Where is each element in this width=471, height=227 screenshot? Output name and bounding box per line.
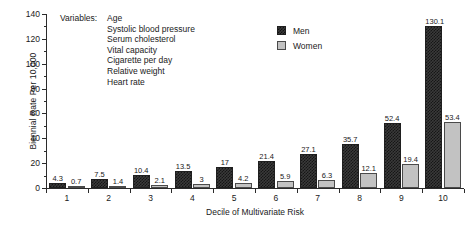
bar-value-label: 5.9 — [280, 173, 290, 181]
x-tick-label: 6 — [274, 193, 279, 203]
bar-chart-figure: Biennial Rate Per 10,000 020406080100120… — [0, 0, 471, 227]
bar-men: 21.4 — [258, 161, 275, 188]
bar-value-label: 4.2 — [238, 175, 248, 183]
bar-value-label: 27.1 — [301, 146, 316, 154]
bar-women: 4.2 — [235, 183, 252, 188]
variable-item: Cigarette per day — [107, 55, 195, 66]
bar-value-label: 12.1 — [361, 165, 376, 173]
legend-label: Women — [293, 41, 322, 51]
bar-men: 17 — [216, 167, 233, 188]
legend-label: Men — [293, 26, 310, 36]
x-tick — [171, 189, 172, 193]
chart-legend: MenWomen — [277, 23, 322, 53]
bar-value-label: 52.4 — [385, 115, 400, 123]
bar-women: 12.1 — [360, 173, 377, 188]
y-tick-label: 40 — [16, 133, 40, 143]
x-tick-label: 4 — [190, 193, 195, 203]
bar-women: 2.1 — [151, 185, 168, 188]
bar-women: 53.4 — [444, 122, 461, 188]
x-tick-label: 2 — [106, 193, 111, 203]
x-tick — [380, 189, 381, 193]
bar-group: 174.2 — [213, 14, 255, 188]
y-tick-label: 20 — [16, 158, 40, 168]
bar-men: 7.5 — [91, 179, 108, 188]
bar-value-label: 1.4 — [113, 178, 123, 186]
x-tick — [130, 189, 131, 193]
x-axis-title: Decile of Multivariate Risk — [46, 207, 464, 217]
y-tick-label: 0 — [16, 183, 40, 193]
bar-value-label: 2.1 — [155, 177, 165, 185]
y-tick-label: 80 — [16, 84, 40, 94]
bar-value-label: 21.4 — [259, 153, 274, 161]
bar-value-label: 0.7 — [71, 178, 81, 186]
variables-list: AgeSystolic blood pressureSerum choleste… — [107, 13, 195, 87]
bar-men: 52.4 — [384, 123, 401, 188]
variable-item: Relative weight — [107, 66, 195, 77]
bar-value-label: 130.1 — [425, 18, 442, 26]
x-tick — [464, 189, 465, 193]
x-tick — [297, 189, 298, 193]
x-tick-label: 5 — [232, 193, 237, 203]
legend-item-men: Men — [277, 23, 322, 38]
bar-group: 130.153.4 — [422, 14, 464, 188]
bar-value-label: 10.4 — [134, 167, 149, 175]
bar-value-label: 7.5 — [94, 171, 104, 179]
x-tick — [213, 189, 214, 193]
x-tick-label: 9 — [399, 193, 404, 203]
bar-men: 27.1 — [300, 154, 317, 188]
bar-value-label: 13.5 — [176, 163, 191, 171]
bar-men: 130.1 — [425, 26, 442, 188]
y-tick-label: 60 — [16, 108, 40, 118]
bar-women: 19.4 — [402, 164, 419, 188]
bar-group: 52.419.4 — [380, 14, 422, 188]
x-tick — [255, 189, 256, 193]
bar-value-label: 6.3 — [322, 172, 332, 180]
bar-value-label: 19.4 — [403, 156, 418, 164]
bar-men: 4.3 — [49, 183, 66, 188]
x-tick-label: 1 — [65, 193, 70, 203]
bar-value-label: 35.7 — [343, 136, 358, 144]
variable-item: Serum cholesterol — [107, 34, 195, 45]
variables-title: Variables: — [60, 13, 97, 24]
bar-men: 35.7 — [342, 144, 359, 188]
y-axis-tick-labels: 020406080100120140 — [16, 0, 40, 227]
variable-item: Age — [107, 13, 195, 24]
bar-women: 3 — [193, 184, 210, 188]
bar-group: 4.30.7 — [46, 14, 88, 188]
y-tick-label: 140 — [16, 9, 40, 19]
bar-value-label: 53.4 — [445, 114, 460, 122]
x-tick-label: 10 — [438, 193, 447, 203]
x-tick — [88, 189, 89, 193]
variable-item: Heart rate — [107, 77, 195, 88]
bar-value-label: 17 — [221, 159, 229, 167]
bar-women: 0.7 — [68, 186, 85, 188]
bar-group: 35.712.1 — [339, 14, 381, 188]
bar-value-label: 3 — [199, 176, 203, 184]
x-tick-label: 3 — [148, 193, 153, 203]
x-tick — [46, 189, 47, 193]
legend-swatch-icon — [277, 41, 286, 50]
bar-value-label: 4.3 — [52, 175, 62, 183]
x-tick-label: 8 — [357, 193, 362, 203]
bar-men: 13.5 — [175, 171, 192, 188]
legend-item-women: Women — [277, 38, 322, 53]
variable-item: Systolic blood pressure — [107, 24, 195, 35]
x-tick-label: 7 — [315, 193, 320, 203]
bar-women: 1.4 — [109, 186, 126, 188]
bar-women: 5.9 — [277, 181, 294, 188]
bar-men: 10.4 — [133, 175, 150, 188]
variable-item: Vital capacity — [107, 45, 195, 56]
y-tick-label: 100 — [16, 59, 40, 69]
x-tick — [422, 189, 423, 193]
x-tick — [339, 189, 340, 193]
y-tick-label: 120 — [16, 34, 40, 44]
bar-women: 6.3 — [318, 180, 335, 188]
legend-swatch-icon — [277, 26, 286, 35]
